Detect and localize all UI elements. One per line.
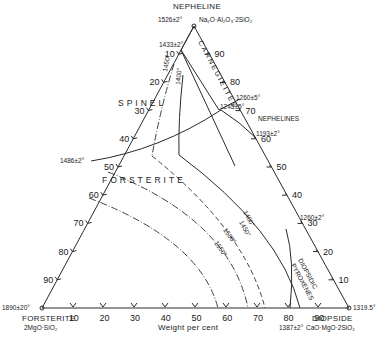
isotherm-1550 [89, 198, 218, 308]
axis-label: Weight per cent [158, 323, 219, 332]
right-tick-label: 80 [230, 77, 240, 87]
isotherm-label-1550: 1550° [213, 240, 229, 258]
vertex-formula-nepheline: Na₂O·Al₂O₃·2SiO₂ [199, 16, 253, 23]
left-tick-label: 60 [89, 190, 99, 200]
isotherm-1400 [179, 155, 300, 308]
left-tick-label: 50 [104, 162, 114, 172]
bottom-tick-label: 60 [222, 313, 232, 323]
vertex-formula-forsterite: 2MgO·SiO₂ [24, 324, 58, 332]
field-label-nephelines: NEPHELINES [258, 115, 300, 122]
point-1486: 1486±2° [60, 157, 85, 164]
left-tick-label: 80 [58, 247, 68, 257]
isotherm-label-1500: 1500° [222, 227, 238, 245]
point-1387: 1387±2° [279, 324, 304, 331]
vertex-temp-diopside: 1319.5° [353, 304, 376, 311]
left-tick-label: 40 [119, 134, 129, 144]
bottom-tick-label: 40 [161, 313, 171, 323]
isotherm-1500 [108, 172, 248, 308]
bottom-tick-label: 70 [253, 313, 263, 323]
right-tick-label: 10 [339, 275, 349, 285]
left-tick-label: 20 [150, 77, 160, 87]
spinel-isotherm-label-1400: 1400° [174, 67, 182, 85]
ternary-diagram: NEPHELINE 1526±2° Na₂O·Al₂O₃·2SiO₂ 1890±… [0, 0, 383, 342]
point-1260a: 1260±5° [236, 94, 261, 101]
right-tick-label: 70 [246, 106, 256, 116]
bottom-tick-label: 10 [69, 313, 79, 323]
spinel-isotherm-1400 [179, 75, 183, 155]
left-tick-label: 90 [43, 275, 53, 285]
field-label-forsterite: FORSTERITE [102, 175, 186, 185]
forsterite-diopside-boundary [286, 229, 292, 308]
bottom-tick-label: 90 [314, 313, 324, 323]
point-1260b: 1260±2° [300, 214, 325, 221]
vertex-label-forsterite: FORSTERITE [22, 314, 76, 323]
right-tick-label: 40 [292, 190, 302, 200]
vertex-label-nepheline: NEPHELINE [173, 2, 221, 11]
right-tick-label: 50 [277, 162, 287, 172]
point-1193: 1193±2° [256, 130, 280, 137]
right-tick-label: 20 [323, 247, 333, 257]
spinel-isotherm-label-1450: 1450° [161, 54, 171, 72]
point-1245: 1245±5° [220, 103, 245, 110]
bottom-tick-label: 30 [130, 313, 140, 323]
vertex-temp-nepheline: 1526±2° [158, 16, 183, 23]
bottom-tick-label: 80 [284, 313, 294, 323]
right-tick-label: 90 [215, 49, 225, 59]
bottom-tick-label: 50 [192, 313, 202, 323]
point-1433: 1433±2° [159, 41, 184, 48]
vertex-temp-forsterite: 1890±20° [2, 304, 30, 311]
left-tick-label: 70 [74, 218, 84, 228]
bottom-tick-label: 20 [99, 313, 109, 323]
field-label-spinel: SPINEL [118, 98, 166, 108]
vertex-formula-diopside: CaO·MgO·2SiO₂ [306, 324, 355, 332]
bottom-tick-marks [70, 303, 321, 307]
